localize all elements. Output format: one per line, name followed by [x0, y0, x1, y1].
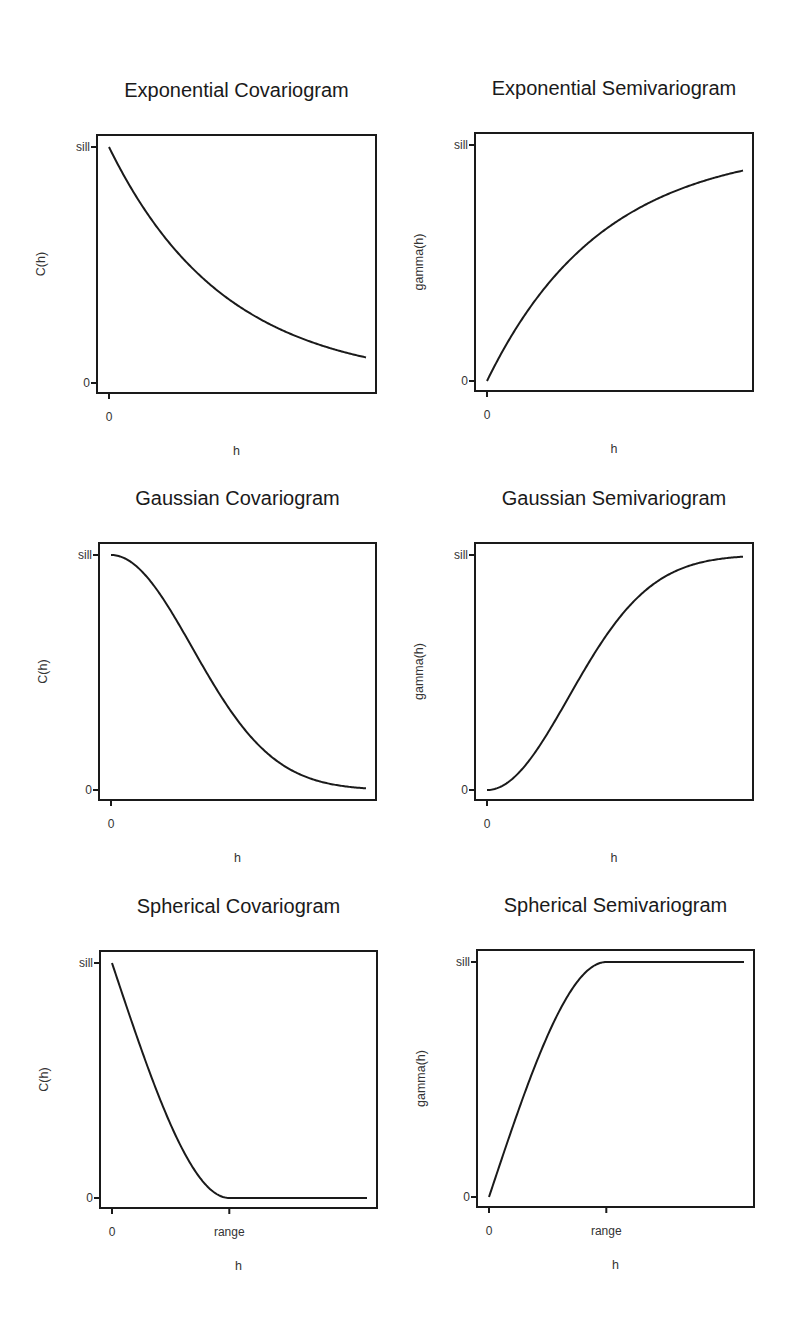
x-tick-label: 0	[484, 408, 491, 422]
chart-panel-sph-semi: Spherical Semivariogram0sill0rangehgamma…	[414, 894, 754, 1272]
x-axis-label: h	[233, 444, 240, 458]
plot-frame	[99, 543, 376, 800]
x-axis-label: h	[611, 851, 618, 865]
y-tick-label: 0	[83, 376, 90, 390]
x-tick-label: range	[214, 1225, 245, 1239]
y-axis-label: C(h)	[37, 1067, 51, 1091]
model-curve	[111, 555, 366, 788]
model-curve	[109, 147, 366, 357]
y-axis-label: gamma(h)	[412, 643, 426, 700]
y-tick-label: sill	[456, 955, 470, 969]
y-axis-label: C(h)	[36, 659, 50, 683]
y-axis-label: gamma(h)	[414, 1050, 428, 1107]
chart-panel-sph-cov: Spherical Covariogram0sill0rangehC(h)	[37, 895, 377, 1273]
x-axis-label: h	[234, 851, 241, 865]
plot-frame	[475, 543, 753, 800]
x-tick-label: 0	[484, 817, 491, 831]
plot-frame	[97, 135, 376, 393]
y-tick-label: 0	[86, 1191, 93, 1205]
y-tick-label: 0	[85, 783, 92, 797]
y-tick-label: 0	[461, 374, 468, 388]
y-axis-label: gamma(h)	[412, 234, 426, 291]
model-curve	[489, 962, 744, 1197]
y-tick-label: sill	[78, 548, 92, 562]
model-curve	[487, 557, 743, 790]
y-tick-label: sill	[79, 956, 93, 970]
model-curve	[112, 963, 367, 1198]
x-tick-label: 0	[106, 410, 113, 424]
model-curve	[487, 171, 743, 381]
y-tick-label: sill	[76, 140, 90, 154]
chart-title: Spherical Semivariogram	[504, 894, 727, 916]
y-tick-label: 0	[463, 1190, 470, 1204]
plot-frame	[477, 950, 754, 1207]
x-axis-label: h	[612, 1258, 619, 1272]
chart-title: Spherical Covariogram	[137, 895, 340, 917]
x-tick-label: 0	[486, 1224, 493, 1238]
chart-title: Gaussian Covariogram	[135, 487, 340, 509]
x-axis-label: h	[611, 442, 618, 456]
plot-frame	[475, 133, 753, 391]
chart-title: Gaussian Semivariogram	[502, 487, 727, 509]
chart-panel-exp-cov: Exponential Covariogram0sill0hC(h)	[34, 79, 376, 458]
x-tick-label: 0	[109, 1225, 116, 1239]
plot-frame	[100, 951, 377, 1208]
x-tick-label: range	[591, 1224, 622, 1238]
chart-panel-gau-semi: Gaussian Semivariogram0sill0hgamma(h)	[412, 487, 753, 865]
chart-title: Exponential Covariogram	[124, 79, 349, 101]
variogram-figure: Exponential Covariogram0sill0hC(h)Expone…	[0, 0, 795, 1337]
x-axis-label: h	[235, 1259, 242, 1273]
chart-title: Exponential Semivariogram	[492, 77, 737, 99]
x-tick-label: 0	[108, 817, 115, 831]
y-tick-label: 0	[461, 783, 468, 797]
y-tick-label: sill	[454, 548, 468, 562]
y-tick-label: sill	[454, 138, 468, 152]
chart-panel-gau-cov: Gaussian Covariogram0sill0hC(h)	[36, 487, 376, 865]
chart-panel-exp-semi: Exponential Semivariogram0sill0hgamma(h)	[412, 77, 753, 456]
y-axis-label: C(h)	[34, 252, 48, 276]
